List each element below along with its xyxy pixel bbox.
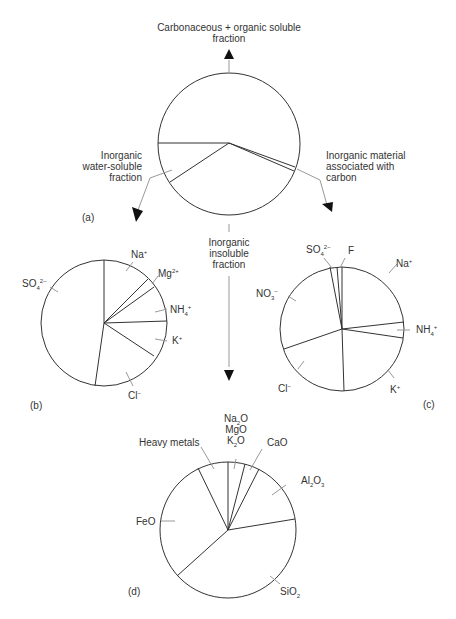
c-no3-label: NO3− <box>256 288 278 299</box>
arrow-right <box>297 169 327 205</box>
panel-c-label: (c) <box>423 399 435 410</box>
water-soluble-label: Inorganic water-soluble fraction <box>74 150 142 183</box>
panel-a-label: (a) <box>82 212 94 223</box>
d-sio2-label: SiO2 <box>280 586 300 597</box>
d-feo-label: FeO <box>136 516 155 527</box>
arrowhead-left <box>132 207 143 222</box>
b-na-label: Na+ <box>131 249 147 260</box>
panel-b-label: (b) <box>30 400 42 411</box>
c-f-label: F <box>348 245 354 256</box>
c-nh4-label: NH4+ <box>416 324 437 335</box>
b-mg-label: Mg2+ <box>158 268 179 279</box>
d-heavy-metals-label: Heavy metals <box>139 437 200 448</box>
b-k-label: K+ <box>172 335 182 346</box>
carbon-associated-label: Inorganic material associated with carbo… <box>326 150 405 183</box>
d-cao-label: CaO <box>267 437 288 448</box>
figure-canvas <box>0 0 456 619</box>
center-label-line2: insoluble <box>199 248 259 259</box>
arrowhead-down <box>224 370 234 381</box>
pie-b <box>41 260 167 386</box>
c-cl-label: Cl− <box>278 383 291 394</box>
right-label-line2: associated with <box>326 161 405 172</box>
right-label-line1: Inorganic material <box>326 150 405 161</box>
d-al2o3-label: Al2O3 <box>301 475 324 486</box>
top-label-line2: fraction <box>150 33 308 44</box>
panel-d-label: (d) <box>128 586 140 597</box>
b-so4-label: SO42− <box>22 278 47 289</box>
center-label-line3: fraction <box>199 259 259 270</box>
b-nh4-label: NH4+ <box>170 304 191 315</box>
c-so4-label: SO42− <box>306 244 331 255</box>
arrowhead-up <box>224 49 234 59</box>
b-cl-label: Cl− <box>128 390 141 401</box>
left-label-line1: Inorganic <box>74 150 142 161</box>
left-label-line3: fraction <box>74 172 142 183</box>
arrowhead-right <box>322 202 333 212</box>
insoluble-label: Inorganic insoluble fraction <box>199 237 259 270</box>
center-label-line1: Inorganic <box>199 237 259 248</box>
pie-a <box>158 73 300 215</box>
c-na-label: Na+ <box>396 258 412 269</box>
pie-d <box>160 462 296 598</box>
right-label-line3: carbon <box>326 172 405 183</box>
top-fraction-label: Carbonaceous + organic soluble fraction <box>150 22 308 44</box>
c-k-label: K+ <box>390 384 400 395</box>
pie-c <box>280 267 404 391</box>
left-label-line2: water-soluble <box>74 161 142 172</box>
top-label-line1: Carbonaceous + organic soluble <box>150 22 308 33</box>
d-oxides-label: Na2O MgO K2O <box>219 413 253 446</box>
